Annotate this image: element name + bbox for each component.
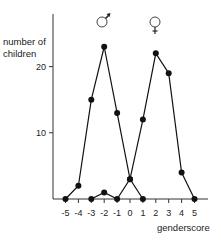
series-female <box>88 50 197 202</box>
data-point <box>101 189 107 195</box>
data-point <box>63 196 69 202</box>
data-point <box>114 110 120 116</box>
data-point <box>153 50 159 56</box>
series-male <box>63 44 146 202</box>
x-tick-label: 4 <box>179 208 184 218</box>
female-symbol-icon <box>150 17 160 34</box>
data-point <box>140 196 146 202</box>
x-tick-label: -1 <box>113 208 121 218</box>
data-point <box>179 170 185 176</box>
data-point <box>192 196 198 202</box>
x-tick-label: -3 <box>87 208 95 218</box>
x-tick-label: 2 <box>153 208 158 218</box>
series-line <box>66 47 143 199</box>
data-point <box>88 97 94 103</box>
data-point <box>114 196 120 202</box>
x-tick-label: -5 <box>61 208 69 218</box>
y-tick-label: 10 <box>36 128 46 138</box>
x-tick-label: -2 <box>100 208 108 218</box>
x-tick-label: 0 <box>127 208 132 218</box>
plot-area: 1020-5-4-3-2-1012345 <box>0 0 221 242</box>
x-tick-label: 5 <box>192 208 197 218</box>
genderscore-line-chart: number of children genderscore 1020-5-4-… <box>0 0 221 242</box>
y-tick-label: 20 <box>36 62 46 72</box>
data-point <box>166 70 172 76</box>
male-symbol-icon <box>97 13 111 27</box>
gender-symbols <box>97 13 160 34</box>
x-tick-label: 3 <box>166 208 171 218</box>
data-point <box>75 183 81 189</box>
x-tick-label: 1 <box>140 208 145 218</box>
data-point <box>88 196 94 202</box>
x-tick-label: -4 <box>74 208 82 218</box>
data-point <box>140 117 146 123</box>
data-point <box>127 176 133 182</box>
data-point <box>101 44 107 50</box>
series-line <box>91 53 194 199</box>
data-series <box>63 44 198 202</box>
axes: 1020-5-4-3-2-1012345 <box>36 14 208 218</box>
